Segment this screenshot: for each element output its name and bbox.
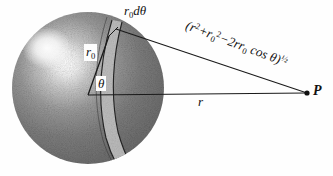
diagram-canvas (0, 0, 333, 176)
label-r0-dtheta: r0dθ (124, 4, 146, 19)
label-point-p: P (313, 84, 322, 98)
label-r0-dtheta-tail: dθ (133, 3, 146, 18)
point-p-marker (304, 90, 309, 95)
label-r0: r0 (84, 44, 97, 61)
sphere-body (12, 12, 164, 164)
sphere-geometry-diagram: r0dθ r0 θ r P (r2+r02−2rr0 cos θ)½ (0, 0, 333, 176)
label-r0-sub: 0 (91, 51, 95, 61)
label-r: r (198, 95, 203, 108)
label-theta: θ (96, 76, 106, 91)
